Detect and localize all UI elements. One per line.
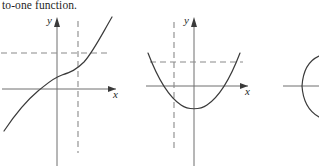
graph2-y-axis-label: y [183,14,189,26]
graph1-curve [4,17,112,131]
increasing-cubic-graph: y x [1,14,118,166]
sideways-parabola-graph [283,56,319,117]
graph2-x-axis-label: x [244,85,250,97]
graphs-canvas: y x y x [0,0,319,166]
graph1-x-axis-label: x [112,88,118,100]
figure-root: to-one function. y x [0,0,319,166]
graph1-y-axis-label: y [46,14,52,26]
parabola-graph: y x [146,14,250,166]
graph2-y-axis-arrowhead [191,17,197,27]
graph1-y-axis-arrowhead [54,17,60,27]
